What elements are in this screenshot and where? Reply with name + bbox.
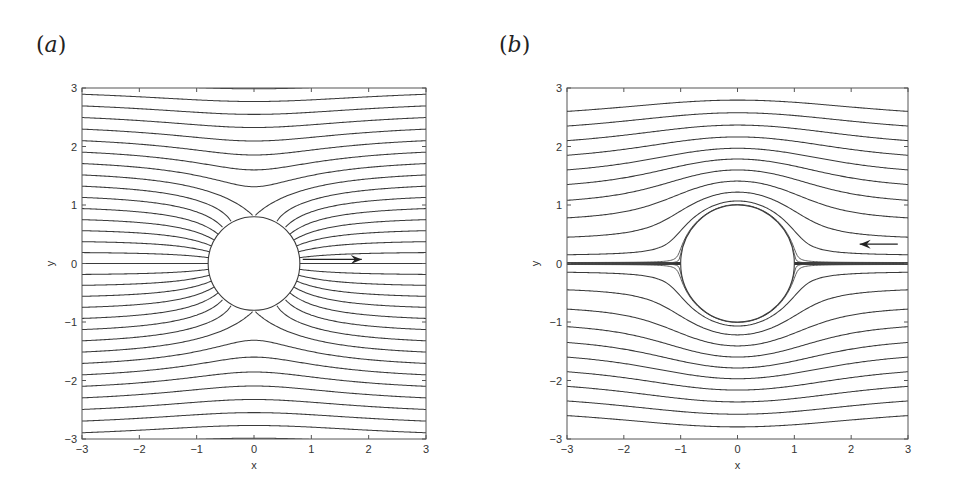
figure: (a) −3−2−10123−3−2−10123 x y (b) −3−2−10… (0, 0, 957, 492)
streamline (82, 425, 426, 432)
y-tick-label: −2 (549, 375, 562, 387)
panel-a-ylabel: y (44, 260, 56, 266)
streamline (567, 327, 908, 357)
y-tick-label: 2 (71, 141, 77, 153)
panel-a-xlabel: x (251, 459, 257, 471)
streamline (82, 141, 426, 155)
x-tick-label: −3 (76, 443, 89, 455)
panel-b-label: (b) (499, 32, 530, 57)
x-tick-label: 3 (905, 443, 911, 455)
x-tick-label: 1 (308, 443, 314, 455)
streamline (82, 106, 426, 114)
streamline (82, 399, 426, 409)
streamline (567, 137, 908, 155)
panel-b-streamlines (567, 100, 908, 427)
panel-b-ylabel: y (529, 260, 541, 266)
panel-a: (a) −3−2−10123−3−2−10123 x y (36, 32, 429, 471)
x-tick-label: −3 (561, 443, 574, 455)
streamline (567, 386, 908, 402)
y-tick-label: 0 (71, 258, 77, 270)
y-tick-label: 3 (71, 82, 77, 94)
streamline (82, 175, 426, 215)
x-tick-label: 3 (423, 443, 429, 455)
x-tick-label: −1 (190, 443, 203, 455)
y-tick-label: 2 (556, 141, 562, 153)
streamline (82, 118, 426, 128)
streamline (567, 170, 908, 200)
panel-a-label: (a) (36, 32, 66, 57)
streamline (567, 416, 908, 427)
x-tick-label: 1 (791, 443, 797, 455)
x-tick-label: 0 (251, 443, 257, 455)
panel-b-xlabel: x (735, 459, 741, 471)
y-tick-label: 3 (556, 82, 562, 94)
cylinder-body (681, 205, 795, 322)
streamline (82, 129, 426, 141)
y-tick-label: −2 (64, 375, 77, 387)
streamline (82, 372, 426, 386)
streamline (567, 401, 908, 414)
streamline (567, 100, 908, 111)
cylinder-body (208, 217, 300, 311)
y-tick-label: 1 (556, 199, 562, 211)
streamline (82, 340, 426, 363)
x-tick-label: 0 (734, 443, 740, 455)
streamline (82, 71, 426, 76)
flow-arrow-left-icon (860, 240, 898, 249)
streamline (567, 372, 908, 390)
streamline (82, 306, 426, 341)
y-tick-label: 1 (71, 199, 77, 211)
panel-a-streamlines (82, 71, 426, 456)
x-tick-label: 2 (848, 443, 854, 455)
streamline (82, 312, 426, 352)
streamline (82, 413, 426, 421)
streamline (567, 113, 908, 126)
y-tick-label: −3 (549, 433, 562, 445)
streamline (82, 164, 426, 187)
panel-b: (b) −3−2−10123−3−2−10123 x y (499, 32, 911, 471)
x-tick-label: −2 (618, 443, 631, 455)
y-tick-label: 0 (556, 258, 562, 270)
streamline (82, 386, 426, 398)
streamline (82, 186, 426, 221)
streamline (567, 125, 908, 141)
x-tick-label: −2 (133, 443, 146, 455)
y-tick-label: −1 (549, 316, 562, 328)
x-tick-label: 2 (366, 443, 372, 455)
x-tick-label: −1 (674, 443, 687, 455)
streamline (82, 94, 426, 101)
y-tick-label: −3 (64, 433, 77, 445)
y-tick-label: −1 (64, 316, 77, 328)
